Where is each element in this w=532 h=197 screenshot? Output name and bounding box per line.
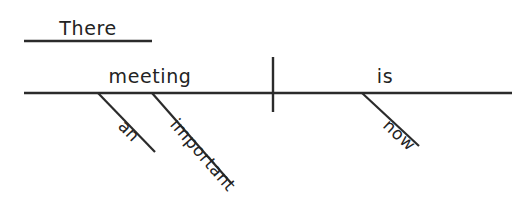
verb-word-is: is: [377, 67, 393, 86]
expletive-word-there: There: [59, 19, 116, 38]
sentence-diagram-canvas: There meeting is an important now: [0, 0, 532, 197]
subject-word-meeting: meeting: [109, 67, 192, 86]
